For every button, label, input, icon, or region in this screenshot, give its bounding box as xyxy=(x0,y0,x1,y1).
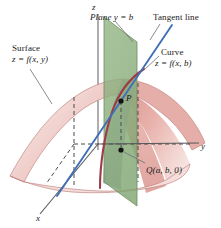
point-p-dot xyxy=(118,98,123,103)
leader-surface xyxy=(30,69,52,104)
point-q-label: Q(a, b, 0) xyxy=(146,165,182,176)
partial-derivative-diagram: Surface z = f(x, y) Plane y = b Tangent … xyxy=(0,0,221,228)
surface-label-line2: z = f(x, y) xyxy=(12,54,48,65)
surface-label-line1: Surface xyxy=(12,43,40,54)
y-axis-label: y xyxy=(201,142,205,151)
z-axis-label: z xyxy=(92,3,96,12)
tangent-line-label: Tangent line xyxy=(153,12,199,23)
plane-label: Plane y = b xyxy=(90,12,133,23)
diagram-canvas xyxy=(0,0,221,228)
point-q-dot xyxy=(118,147,123,152)
leader-tangent xyxy=(150,24,160,40)
point-p-label: P xyxy=(126,93,132,104)
curve-label-line1: Curve xyxy=(161,47,184,58)
x-axis-label: x xyxy=(36,214,40,223)
curve-label-line2: z = f(x, b) xyxy=(155,58,192,69)
